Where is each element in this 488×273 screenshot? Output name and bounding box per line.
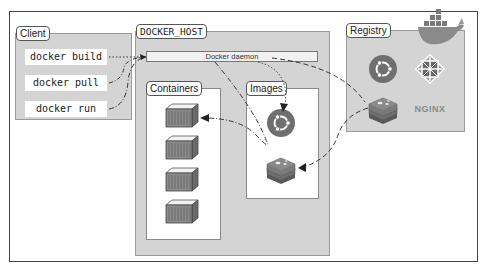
docker-host-label: DOCKER_HOST [136,24,207,39]
registry-label: Registry [346,23,391,38]
images-label: Images [246,81,287,96]
images-panel [246,88,319,199]
containers-panel [146,88,221,240]
docker-daemon-bar: Docker daemon [146,51,318,62]
containers-label: Containers [146,81,202,96]
command-docker-pull: docker pull [25,75,107,91]
client-label: Client [16,26,50,41]
command-docker-run: docker run [25,101,107,117]
registry-panel [346,30,465,132]
command-docker-build: docker build [25,49,107,65]
